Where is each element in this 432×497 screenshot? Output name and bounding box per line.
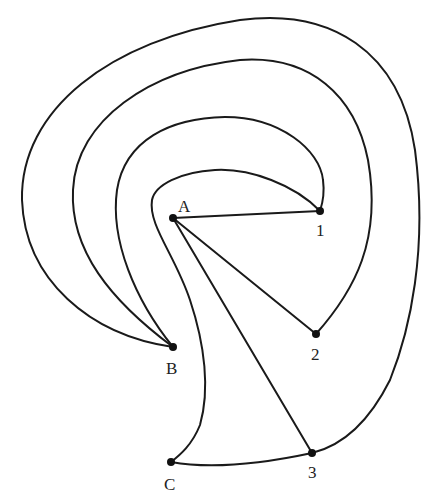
node-B xyxy=(169,343,177,351)
label-1: 1 xyxy=(316,221,325,240)
node-1 xyxy=(316,207,324,215)
node-2 xyxy=(312,330,320,338)
label-3: 3 xyxy=(308,463,317,482)
graph-diagram: A 1 2 B C 3 xyxy=(0,0,432,497)
node-A xyxy=(169,214,177,222)
curve-B-3 xyxy=(22,18,419,453)
curve-C-3 xyxy=(171,453,312,465)
node-3 xyxy=(308,449,316,457)
curve-B-1 xyxy=(116,117,324,347)
node-C xyxy=(167,458,175,466)
label-C: C xyxy=(164,475,175,494)
label-A: A xyxy=(178,197,191,216)
curve-B-2 xyxy=(73,60,372,347)
label-2: 2 xyxy=(311,345,320,364)
edge-A-3 xyxy=(173,218,312,453)
label-B: B xyxy=(166,359,177,378)
edge-A-1 xyxy=(173,211,320,218)
